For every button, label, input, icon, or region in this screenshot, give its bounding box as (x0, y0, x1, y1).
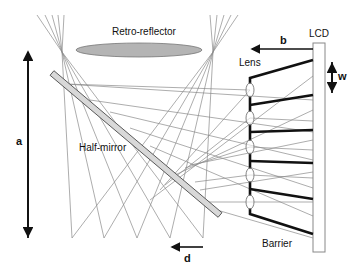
lcd-label: LCD (309, 28, 329, 39)
retro-reflector-label: Retro-reflector (112, 26, 176, 37)
lens (246, 140, 254, 154)
optical-system-diagram: Retro-reflector Half-mirror Lens LCD Bar… (0, 0, 361, 270)
diagram-canvas (0, 0, 361, 270)
dimension-b-label: b (280, 34, 287, 46)
dimension-a-label: a (16, 135, 22, 147)
dimension-w-label: w (338, 70, 347, 82)
lcd-panel (313, 43, 325, 252)
lens (246, 168, 254, 182)
lens (246, 83, 254, 97)
lens (246, 195, 254, 209)
lens (246, 111, 254, 125)
lens-label: Lens (239, 57, 261, 68)
retro-reflector (76, 43, 202, 57)
dimension-d-label: d (184, 252, 191, 264)
barrier-label: Barrier (262, 238, 292, 249)
half-mirror-label: Half-mirror (79, 142, 126, 153)
